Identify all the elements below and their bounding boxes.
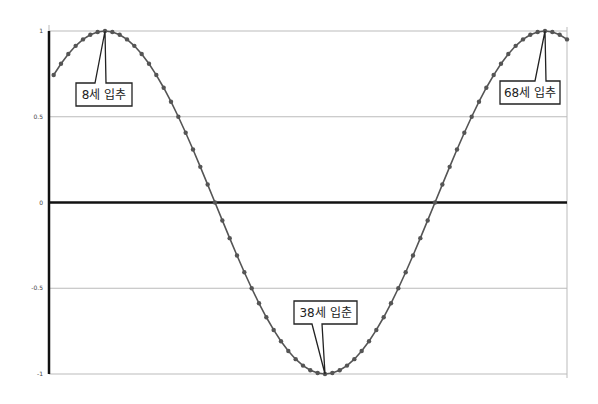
data-point-marker [117,33,121,37]
data-point-marker [176,115,180,119]
data-point-marker [286,349,290,353]
callout-label: 8세 입추 [82,88,126,102]
data-point-marker [88,33,92,37]
y-tick-label: 0 [39,199,43,206]
data-point-marker [205,182,209,186]
data-point-marker [132,44,136,48]
data-point-marker [73,44,77,48]
data-point-marker [220,218,224,222]
data-point-marker [521,37,525,41]
data-point-marker [447,165,451,169]
data-point-marker [491,73,495,77]
data-point-marker [535,30,539,34]
data-point-marker [154,73,158,77]
data-point-marker [389,301,393,305]
callout: 68세 입추 [500,31,560,104]
data-point-marker [227,236,231,240]
data-point-marker [484,86,488,90]
callout-label: 38세 입춘 [299,306,351,320]
data-point-marker [455,147,459,151]
data-point-marker [462,131,466,135]
data-point-marker [411,253,415,257]
data-point-marker [235,253,239,257]
data-point-marker [183,131,187,135]
y-axis-tick-labels: 10.50-0.5-1 [31,27,43,377]
data-point-marker [506,52,510,56]
data-point-marker [293,357,297,361]
data-point-marker [110,30,114,34]
data-point-marker [528,33,532,37]
data-point-marker [396,286,400,290]
data-point-marker [279,339,283,343]
data-point-marker [271,328,275,332]
callout: 8세 입추 [76,31,132,106]
data-point-marker [315,371,319,375]
y-tick-label: 0.5 [33,113,43,120]
data-point-marker [469,115,473,119]
data-point-marker [330,371,334,375]
data-point-marker [433,200,437,204]
data-point-marker [81,37,85,41]
data-point-marker [337,368,341,372]
data-point-marker [213,200,217,204]
data-point-marker [565,37,569,41]
data-point-marker [51,73,55,77]
data-point-marker [477,99,481,103]
data-point-marker [139,52,143,56]
data-point-marker [161,86,165,90]
data-point-marker [550,30,554,34]
data-point-marker [125,37,129,41]
data-point-marker [242,270,246,274]
data-point-marker [264,315,268,319]
data-point-marker [557,33,561,37]
data-point-marker [499,62,503,66]
data-point-marker [425,218,429,222]
data-point-marker [367,339,371,343]
data-point-marker [308,368,312,372]
data-point-marker [191,147,195,151]
data-point-marker [66,52,70,56]
data-point-marker [359,349,363,353]
data-point-marker [374,328,378,332]
data-point-marker [257,301,261,305]
data-point-marker [403,270,407,274]
data-point-marker [381,315,385,319]
y-tick-label: -1 [37,370,43,377]
callout-label: 68세 입추 [504,86,556,100]
data-point-marker [301,363,305,367]
data-point-marker [95,30,99,34]
data-point-marker [249,286,253,290]
chart: 10.50-0.5-1 8세 입추38세 입춘68세 입추 [0,0,598,404]
data-point-marker [169,99,173,103]
data-point-marker [440,182,444,186]
data-point-marker [513,44,517,48]
data-point-marker [198,165,202,169]
data-point-marker [418,236,422,240]
data-point-marker [345,363,349,367]
data-point-marker [352,357,356,361]
data-point-marker [147,62,151,66]
data-point-marker [59,62,63,66]
callout: 38세 입춘 [294,301,357,374]
y-tick-label: 1 [39,27,43,34]
y-tick-label: -0.5 [31,284,43,291]
